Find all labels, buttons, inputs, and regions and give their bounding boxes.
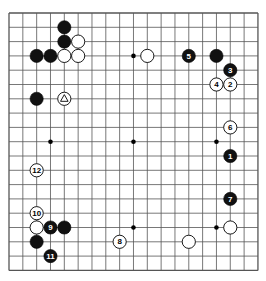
black-stone: 5: [182, 49, 195, 62]
stone-disc: [58, 35, 71, 48]
stone-disc: [30, 235, 43, 248]
stone-disc: [224, 221, 237, 234]
white-stone: 6: [224, 121, 237, 134]
black-stone: 9: [44, 221, 57, 234]
star-point: [214, 139, 219, 144]
black-stone: 11: [44, 250, 57, 263]
black-stone: 7: [224, 192, 237, 205]
stone-disc: [141, 49, 154, 62]
black-stone: [58, 21, 71, 34]
black-stone: [30, 49, 43, 62]
star-point: [131, 54, 136, 59]
star-point: [131, 225, 136, 230]
move-number-label: 4: [214, 80, 219, 89]
move-number-label: 12: [32, 166, 41, 175]
black-stone: [30, 92, 43, 105]
stone-disc: [182, 235, 195, 248]
white-stone: 10: [30, 207, 43, 220]
move-number-label: 6: [228, 123, 233, 132]
move-number-label: 8: [117, 237, 122, 246]
black-stone: [44, 49, 57, 62]
stone-disc: [30, 49, 43, 62]
move-number-label: 5: [187, 52, 192, 61]
white-stone: 4: [210, 78, 223, 91]
star-point: [48, 139, 53, 144]
white-stone: [58, 92, 71, 105]
white-stone: [182, 235, 195, 248]
stone-disc: [210, 49, 223, 62]
move-number-label: 3: [228, 66, 233, 75]
black-stone: [58, 35, 71, 48]
black-stone: 3: [224, 64, 237, 77]
move-number-label: 1: [228, 152, 233, 161]
white-stone: [72, 35, 85, 48]
white-stone: 12: [30, 164, 43, 177]
white-stone: 8: [113, 235, 126, 248]
white-stone: [30, 221, 43, 234]
white-stone: [224, 221, 237, 234]
stone-disc: [58, 21, 71, 34]
black-stone: [58, 221, 71, 234]
move-number-label: 11: [46, 252, 55, 261]
black-stone: 1: [224, 149, 237, 162]
star-point: [214, 225, 219, 230]
stone-disc: [58, 221, 71, 234]
white-stone: [141, 49, 154, 62]
move-number-label: 7: [228, 195, 233, 204]
black-stone: [30, 235, 43, 248]
white-stone: [58, 49, 71, 62]
move-number-label: 9: [48, 223, 53, 232]
black-stone: [210, 49, 223, 62]
stone-disc: [44, 49, 57, 62]
stone-disc: [30, 221, 43, 234]
white-stone: [72, 49, 85, 62]
move-number-label: 10: [32, 209, 41, 218]
stone-disc: [72, 35, 85, 48]
stone-disc: [58, 49, 71, 62]
white-stone: 2: [224, 78, 237, 91]
move-number-label: 2: [228, 80, 233, 89]
star-point: [131, 139, 136, 144]
go-board: 534261712109118: [0, 0, 266, 281]
stone-disc: [72, 49, 85, 62]
stone-disc: [30, 92, 43, 105]
